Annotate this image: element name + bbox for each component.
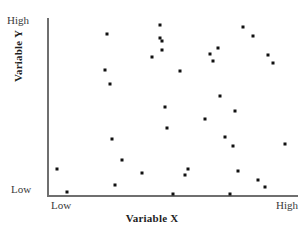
data-point (236, 170, 239, 173)
data-point (271, 61, 274, 64)
data-point (211, 59, 214, 62)
y-axis-low-tick-label: Low (11, 183, 31, 195)
data-point (141, 171, 144, 174)
data-point (66, 191, 69, 194)
data-point (161, 40, 164, 43)
data-point (241, 25, 244, 28)
data-point (163, 106, 166, 109)
data-point (103, 68, 106, 71)
scatter-plot-figure: High Low Low High Variable X Variable Y (0, 0, 304, 231)
data-point (224, 136, 227, 139)
data-point (113, 184, 116, 187)
data-point (231, 145, 234, 148)
data-point (216, 47, 219, 50)
x-axis-title: Variable X (0, 212, 304, 224)
data-point (171, 193, 174, 196)
data-point (266, 54, 269, 57)
data-point (264, 186, 267, 189)
data-point (111, 138, 114, 141)
data-point (158, 24, 161, 27)
data-point (284, 143, 287, 146)
data-point (106, 33, 109, 36)
x-axis-high-tick-label: High (276, 199, 298, 211)
x-axis-low-tick-label: Low (51, 199, 71, 211)
y-axis-title: Variable Y (12, 1, 24, 111)
data-point (56, 168, 59, 171)
plot-area (47, 18, 298, 196)
data-point (166, 127, 169, 130)
data-point (256, 178, 259, 181)
data-point (161, 49, 164, 52)
data-point (229, 193, 232, 196)
data-point (184, 173, 187, 176)
data-point (108, 82, 111, 85)
data-point (186, 168, 189, 171)
data-point (121, 159, 124, 162)
data-point (179, 70, 182, 73)
data-point (204, 118, 207, 121)
data-point (234, 109, 237, 112)
data-point (151, 56, 154, 59)
data-point (209, 52, 212, 55)
data-point (158, 36, 161, 39)
data-point (251, 34, 254, 37)
data-point (219, 95, 222, 98)
